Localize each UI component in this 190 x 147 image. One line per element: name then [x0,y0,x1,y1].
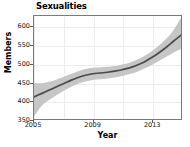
y-tick-label: 450 [4,79,30,87]
y-tick-label: 600 [4,22,30,30]
trend-line [34,35,181,97]
x-tick-mark [152,120,153,123]
y-tick-label: 400 [4,97,30,105]
trend-plot [34,16,181,119]
chart-container: Sexualities Members Year 350400450500550… [0,0,190,147]
x-axis-title: Year [33,131,182,140]
confidence-band [34,18,181,117]
x-tick-mark [33,120,34,123]
y-axis-title: Members [4,23,13,83]
chart-title: Sexualities [36,1,87,11]
x-tick-mark [93,120,94,123]
plot-area [33,15,182,120]
y-tick-label: 500 [4,60,30,68]
y-tick-label: 550 [4,41,30,49]
